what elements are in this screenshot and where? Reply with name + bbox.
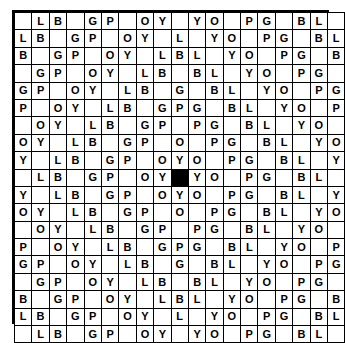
grid-cell-letter[interactable]: G: [328, 256, 345, 273]
grid-cell-letter[interactable]: Y: [32, 134, 49, 151]
grid-cell-blank[interactable]: [258, 291, 275, 308]
grid-cell-blank[interactable]: [84, 47, 101, 64]
grid-cell-blank[interactable]: [67, 326, 84, 343]
grid-cell-letter[interactable]: B: [241, 117, 258, 134]
grid-cell-blank[interactable]: [136, 99, 153, 116]
grid-cell-letter[interactable]: G: [223, 204, 240, 221]
grid-cell-blank[interactable]: [275, 221, 292, 238]
grid-cell-letter[interactable]: B: [154, 273, 171, 290]
grid-cell-letter[interactable]: Y: [188, 169, 205, 186]
grid-cell-letter[interactable]: L: [136, 65, 153, 82]
grid-cell-blank[interactable]: [258, 239, 275, 256]
grid-cell-blank[interactable]: [223, 221, 240, 238]
grid-cell-letter[interactable]: B: [310, 30, 327, 47]
grid-cell-letter[interactable]: B: [171, 291, 188, 308]
grid-cell-letter[interactable]: O: [328, 204, 345, 221]
grid-cell-letter[interactable]: O: [171, 204, 188, 221]
grid-cell-letter[interactable]: P: [293, 273, 310, 290]
grid-cell-blank[interactable]: [32, 47, 49, 64]
grid-cell-blank[interactable]: [293, 134, 310, 151]
grid-cell-letter[interactable]: P: [328, 239, 345, 256]
grid-cell-blank[interactable]: [32, 239, 49, 256]
grid-cell-letter[interactable]: Y: [84, 82, 101, 99]
grid-cell-letter[interactable]: Y: [154, 169, 171, 186]
grid-cell-blank[interactable]: [32, 152, 49, 169]
grid-cell-letter[interactable]: B: [119, 99, 136, 116]
grid-cell-letter[interactable]: Y: [101, 273, 118, 290]
grid-cell-blank[interactable]: [136, 152, 153, 169]
grid-cell-blank[interactable]: [328, 13, 345, 30]
grid-cell-blank[interactable]: [49, 82, 66, 99]
grid-cell-letter[interactable]: L: [32, 326, 49, 343]
grid-cell-letter[interactable]: B: [32, 30, 49, 47]
grid-cell-letter[interactable]: P: [241, 326, 258, 343]
grid-cell-letter[interactable]: B: [84, 134, 101, 151]
grid-cell-letter[interactable]: L: [84, 221, 101, 238]
grid-cell-letter[interactable]: P: [241, 169, 258, 186]
grid-cell-blank[interactable]: [293, 82, 310, 99]
grid-cell-letter[interactable]: G: [241, 152, 258, 169]
grid-cell-blank[interactable]: [206, 291, 223, 308]
grid-cell-letter[interactable]: L: [188, 291, 205, 308]
grid-cell-blank[interactable]: [67, 221, 84, 238]
grid-cell-letter[interactable]: P: [171, 239, 188, 256]
grid-cell-blank[interactable]: [206, 186, 223, 203]
grid-cell-letter[interactable]: L: [258, 221, 275, 238]
grid-cell-letter[interactable]: L: [154, 291, 171, 308]
grid-cell-letter[interactable]: P: [49, 273, 66, 290]
grid-cell-blank[interactable]: [154, 30, 171, 47]
grid-cell-letter[interactable]: G: [293, 47, 310, 64]
grid-cell-letter[interactable]: O: [154, 152, 171, 169]
grid-cell-letter[interactable]: B: [49, 169, 66, 186]
grid-cell-letter[interactable]: Y: [223, 291, 240, 308]
grid-cell-blank[interactable]: [15, 117, 32, 134]
grid-cell-blank[interactable]: [49, 134, 66, 151]
grid-cell-letter[interactable]: Y: [310, 134, 327, 151]
grid-cell-letter[interactable]: B: [84, 204, 101, 221]
grid-cell-letter[interactable]: O: [206, 326, 223, 343]
grid-cell-letter[interactable]: Y: [15, 186, 32, 203]
grid-cell-letter[interactable]: O: [101, 291, 118, 308]
grid-cell-letter[interactable]: L: [241, 239, 258, 256]
grid-cell-letter[interactable]: P: [84, 30, 101, 47]
grid-cell-blank[interactable]: [15, 65, 32, 82]
grid-cell-letter[interactable]: B: [119, 239, 136, 256]
grid-cell-blank[interactable]: [275, 13, 292, 30]
grid-cell-letter[interactable]: O: [32, 117, 49, 134]
grid-cell-letter[interactable]: Y: [119, 291, 136, 308]
grid-cell-letter[interactable]: L: [49, 152, 66, 169]
grid-cell-letter[interactable]: L: [258, 117, 275, 134]
grid-cell-letter[interactable]: P: [84, 308, 101, 325]
grid-cell-blank[interactable]: [241, 308, 258, 325]
grid-cell-blank[interactable]: [293, 204, 310, 221]
grid-cell-letter[interactable]: O: [84, 65, 101, 82]
grid-cell-blank[interactable]: [32, 186, 49, 203]
grid-cell-letter[interactable]: B: [32, 308, 49, 325]
grid-cell-letter[interactable]: P: [258, 30, 275, 47]
grid-cell-letter[interactable]: B: [258, 134, 275, 151]
grid-cell-letter[interactable]: B: [328, 47, 345, 64]
grid-cell-letter[interactable]: P: [101, 13, 118, 30]
grid-cell-letter[interactable]: G: [328, 82, 345, 99]
grid-cell-letter[interactable]: P: [275, 47, 292, 64]
grid-cell-blank[interactable]: [328, 117, 345, 134]
grid-cell-blank[interactable]: [328, 221, 345, 238]
grid-cell-letter[interactable]: O: [136, 13, 153, 30]
grid-cell-letter[interactable]: B: [310, 308, 327, 325]
grid-cell-letter[interactable]: G: [206, 221, 223, 238]
grid-cell-letter[interactable]: L: [293, 152, 310, 169]
grid-cell-letter[interactable]: L: [310, 326, 327, 343]
grid-cell-letter[interactable]: P: [188, 117, 205, 134]
grid-cell-letter[interactable]: G: [136, 221, 153, 238]
grid-cell-letter[interactable]: L: [15, 308, 32, 325]
grid-cell-blank[interactable]: [206, 99, 223, 116]
grid-cell-blank[interactable]: [67, 169, 84, 186]
grid-cell-blank[interactable]: [15, 169, 32, 186]
grid-cell-letter[interactable]: P: [136, 204, 153, 221]
grid-cell-letter[interactable]: P: [188, 221, 205, 238]
grid-cell-letter[interactable]: L: [171, 308, 188, 325]
grid-cell-letter[interactable]: O: [49, 99, 66, 116]
grid-cell-letter[interactable]: L: [241, 99, 258, 116]
grid-cell-letter[interactable]: Y: [241, 273, 258, 290]
grid-cell-letter[interactable]: G: [84, 326, 101, 343]
